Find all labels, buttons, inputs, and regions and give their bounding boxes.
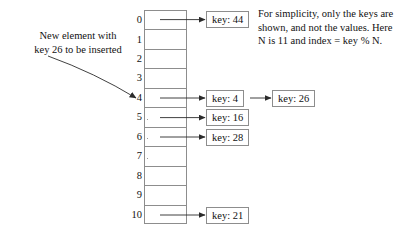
- slot-index-label: 0: [120, 14, 142, 25]
- scan-artifact: [147, 119, 148, 120]
- slot-index-label: 3: [120, 72, 142, 83]
- figure-caption: For simplicity, only the keys are shown,…: [258, 7, 398, 48]
- slot-index-label: 6: [120, 131, 142, 142]
- key-box-slot-10: key: 21: [206, 207, 249, 224]
- table-slot: [145, 147, 186, 166]
- table-slot: [145, 128, 186, 147]
- table-slot: [145, 167, 186, 186]
- slot-index-label: 4: [120, 92, 142, 103]
- table-slot: [145, 50, 186, 69]
- table-slot: [145, 11, 186, 30]
- table-slot: [145, 69, 186, 88]
- slot-index-label: 9: [120, 189, 142, 200]
- slot-index-label: 5: [120, 111, 142, 122]
- scan-artifact: [147, 138, 148, 139]
- scan-artifact: [147, 158, 148, 159]
- hash-table-array: [144, 10, 187, 224]
- table-slot: [145, 186, 186, 205]
- hash-table-figure: New element with key 26 to be inserted 0…: [0, 0, 398, 242]
- key-box-slot-0: key: 44: [206, 11, 249, 28]
- slot-index-label: 8: [120, 170, 142, 181]
- key-box-slot-5: key: 16: [206, 109, 249, 126]
- key-box-slot-6: key: 28: [206, 129, 249, 146]
- table-slot: [145, 206, 186, 225]
- slot-index-label: 10: [120, 209, 142, 220]
- slot-index-label: 2: [120, 53, 142, 64]
- key-box-slot-4: key: 4: [206, 90, 244, 107]
- slot-index-label: 7: [120, 150, 142, 161]
- table-slot: [145, 89, 186, 108]
- table-slot: [145, 30, 186, 49]
- key-box-new-element: key: 26: [272, 90, 315, 107]
- table-slot: [145, 108, 186, 127]
- slot-index-label: 1: [120, 34, 142, 45]
